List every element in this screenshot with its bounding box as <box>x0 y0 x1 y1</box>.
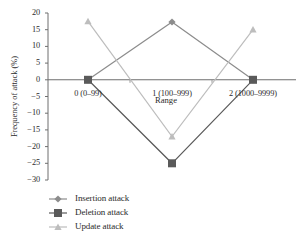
chart-canvas <box>0 0 308 245</box>
y-tick-label: −5 <box>14 92 40 101</box>
y-tick-label: 20 <box>14 8 40 17</box>
figure: Frequency of attack (%) 20151050−5−10−15… <box>0 0 308 245</box>
legend-item-label: Update attack <box>75 221 123 231</box>
y-tick-label: −15 <box>14 125 40 134</box>
x-tick-label: 2 (1000–9999) <box>211 89 295 98</box>
y-tick-label: −25 <box>14 158 40 167</box>
x-tick-label: 0 (0–99) <box>46 89 130 98</box>
y-tick-label: 5 <box>14 58 40 67</box>
legend-item-label: Insertion attack <box>75 193 129 203</box>
y-tick-label: −20 <box>14 142 40 151</box>
y-tick-label: 15 <box>14 25 40 34</box>
x-axis-title: Range <box>126 95 206 105</box>
y-tick-label: −30 <box>14 175 40 184</box>
y-tick-label: 10 <box>14 41 40 50</box>
y-tick-label: 0 <box>14 75 40 84</box>
legend-item-label: Deletion attack <box>75 207 128 217</box>
y-tick-label: −10 <box>14 108 40 117</box>
